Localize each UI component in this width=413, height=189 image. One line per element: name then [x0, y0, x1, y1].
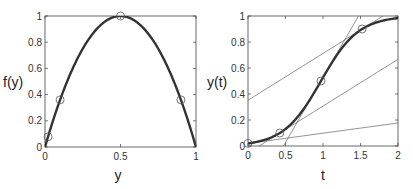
- x-tick-label: 0.5: [114, 151, 128, 162]
- right-xlabel: t: [321, 167, 325, 183]
- y-tick-label: 0.2: [28, 115, 42, 126]
- x-tick-label: 1: [320, 150, 326, 161]
- x-tick-label: 0.5: [279, 150, 293, 161]
- y-tick-label: 1: [239, 11, 245, 22]
- x-tick-label: 2: [395, 150, 401, 161]
- x-tick-label: 1: [193, 151, 199, 162]
- y-tick-label: 0.8: [28, 37, 42, 48]
- right-ylabel: y(t): [207, 74, 227, 90]
- data-curve: [248, 18, 398, 143]
- y-tick-label: 0.6: [28, 63, 42, 74]
- plot-f-of-y: 00.5100.20.40.60.81: [28, 11, 199, 163]
- x-tick-label: 0: [245, 150, 251, 161]
- y-tick-label: 0.6: [231, 63, 245, 74]
- y-tick-label: 1: [36, 11, 42, 22]
- x-tick-label: 1.5: [354, 150, 368, 161]
- left-xlabel: y: [115, 167, 122, 183]
- figure: 00.5100.20.40.60.81 00.511.5200.20.40.60…: [0, 0, 413, 189]
- y-tick-label: 0.4: [231, 89, 245, 100]
- plot-y-of-t: 00.511.5200.20.40.60.81: [231, 11, 401, 162]
- y-tick-label: 0.2: [231, 115, 245, 126]
- y-tick-label: 0: [36, 142, 42, 153]
- x-tick-label: 0: [42, 151, 48, 162]
- axes-box: [248, 16, 398, 146]
- tangent-line: [248, 123, 398, 143]
- y-tick-label: 0.4: [28, 89, 42, 100]
- data-curve: [45, 16, 196, 147]
- y-tick-label: 0.8: [231, 37, 245, 48]
- left-ylabel: f(y): [3, 74, 23, 90]
